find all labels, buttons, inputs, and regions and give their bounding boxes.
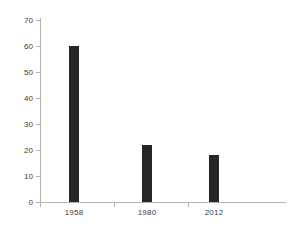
y-tick-20 [36, 150, 41, 151]
y-tick-label-10: 10 [0, 172, 33, 181]
y-tick-label-70: 70 [0, 16, 33, 25]
y-tick-40 [36, 98, 41, 99]
y-tick-label-0: 0 [0, 198, 33, 207]
y-tick-label-50: 50 [0, 68, 33, 77]
y-tick-60 [36, 46, 41, 47]
x-tick-start [40, 203, 41, 207]
x-label-2012: 2012 [205, 208, 224, 217]
y-tick-30 [36, 124, 41, 125]
plot-area: 70 60 50 40 30 20 10 0 1958 1980 2012 [0, 0, 306, 229]
y-tick-label-40: 40 [0, 94, 33, 103]
x-axis-line [40, 202, 286, 203]
y-tick-50 [36, 72, 41, 73]
bar-2012 [209, 155, 219, 202]
y-tick-label-60: 60 [0, 42, 33, 51]
y-tick-70 [36, 20, 41, 21]
y-tick-10 [36, 176, 41, 177]
bar-1980 [142, 145, 152, 202]
x-tick-1 [114, 203, 115, 207]
x-tick-2 [188, 203, 189, 207]
x-label-1958: 1958 [65, 208, 84, 217]
y-tick-label-20: 20 [0, 146, 33, 155]
bar-chart: 70 60 50 40 30 20 10 0 1958 1980 2012 [0, 0, 306, 229]
y-tick-label-30: 30 [0, 120, 33, 129]
x-label-1980: 1980 [138, 208, 157, 217]
bar-1958 [69, 46, 79, 202]
